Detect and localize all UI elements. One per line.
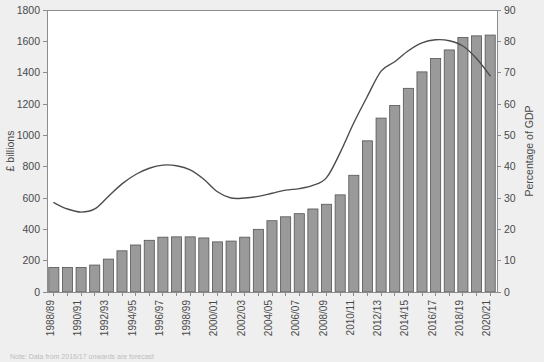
bar xyxy=(281,217,291,292)
chart-container: 020040060080010001200140016001800 010203… xyxy=(0,0,544,362)
x-tick-label: 2020/21 xyxy=(481,300,492,337)
bar xyxy=(376,118,386,292)
left-tick-label: 1000 xyxy=(17,129,41,141)
left-tick-label: 0 xyxy=(34,286,40,298)
right-tick-label: 60 xyxy=(504,98,516,110)
bar xyxy=(349,175,359,292)
left-tick-label: 1200 xyxy=(17,98,41,110)
left-axis-title: £ billions xyxy=(4,131,16,172)
debt-chart: 020040060080010001200140016001800 010203… xyxy=(0,0,544,362)
x-tick-label: 2016/17 xyxy=(427,300,438,337)
right-tick-label: 50 xyxy=(504,129,516,141)
left-tick-label: 200 xyxy=(22,254,40,266)
x-tick-label: 2008/09 xyxy=(318,300,329,337)
x-tick-label: 1998/99 xyxy=(181,300,192,337)
bar xyxy=(390,106,400,292)
bar xyxy=(62,267,72,292)
bar xyxy=(403,88,413,292)
bar xyxy=(240,237,250,292)
bar xyxy=(417,72,427,292)
bar xyxy=(185,237,195,292)
x-tick-label: 2004/05 xyxy=(263,300,274,337)
left-tick-label: 1600 xyxy=(17,35,41,47)
x-tick-label: 1988/89 xyxy=(45,300,56,337)
right-tick-label: 10 xyxy=(504,254,516,266)
bar xyxy=(253,229,263,292)
left-tick-label: 1400 xyxy=(17,66,41,78)
bar xyxy=(131,245,141,292)
bar xyxy=(117,251,127,292)
right-tick-label: 0 xyxy=(504,286,510,298)
bar xyxy=(158,237,168,292)
x-tick-label: 2002/03 xyxy=(236,300,247,337)
x-tick-label: 2006/07 xyxy=(290,300,301,337)
bar xyxy=(90,265,100,292)
x-tick-label: 1996/97 xyxy=(154,300,165,337)
x-tick-label: 2018/19 xyxy=(454,300,465,337)
right-tick-label: 40 xyxy=(504,160,516,172)
right-axis-title: Percentage of GDP xyxy=(523,105,535,196)
bar xyxy=(472,36,482,292)
bar xyxy=(76,267,86,292)
chart-footnote: Note: Data from 2016/17 onwards are fore… xyxy=(10,353,154,360)
bar xyxy=(362,141,372,292)
left-tick-label: 1800 xyxy=(17,4,41,16)
left-tick-label: 600 xyxy=(22,192,40,204)
right-tick-label: 70 xyxy=(504,66,516,78)
right-tick-label: 20 xyxy=(504,223,516,235)
bar xyxy=(335,195,345,292)
bar xyxy=(444,50,454,292)
right-tick-label: 30 xyxy=(504,192,516,204)
bar xyxy=(144,240,154,292)
bar xyxy=(172,237,182,292)
bar xyxy=(226,241,236,292)
bar xyxy=(431,59,441,292)
x-tick-label: 1992/93 xyxy=(99,300,110,337)
right-tick-label: 80 xyxy=(504,35,516,47)
bar xyxy=(212,242,222,292)
x-tick-label: 2014/15 xyxy=(399,300,410,337)
left-tick-label: 800 xyxy=(22,160,40,172)
bar xyxy=(308,209,318,292)
x-tick-label: 2000/01 xyxy=(208,300,219,337)
bar xyxy=(485,35,495,292)
bar xyxy=(458,37,468,292)
bar xyxy=(267,221,277,292)
right-tick-label: 90 xyxy=(504,4,516,16)
x-tick-label: 2012/13 xyxy=(372,300,383,337)
bar xyxy=(103,259,113,292)
x-tick-label: 2010/11 xyxy=(345,300,356,336)
bar xyxy=(322,204,332,292)
bar xyxy=(49,267,59,292)
x-tick-label: 1990/91 xyxy=(72,300,83,337)
bar xyxy=(294,214,304,292)
left-tick-label: 400 xyxy=(22,223,40,235)
bar xyxy=(199,238,209,292)
x-tick-label: 1994/95 xyxy=(127,300,138,337)
